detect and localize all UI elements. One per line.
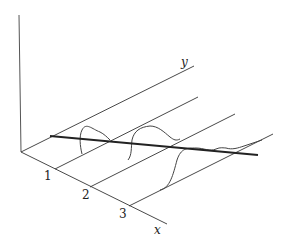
- y-axis-label: y: [180, 55, 188, 69]
- y-axis: [21, 66, 194, 152]
- line-at-x1: [55, 97, 198, 169]
- tick-label-3: 3: [119, 207, 127, 221]
- tick-label-1: 1: [44, 169, 52, 183]
- x-axis: [21, 152, 167, 224]
- vertical-axis: [19, 15, 21, 152]
- x-axis-label: x: [154, 223, 161, 237]
- diagram-canvas: y x 1 2 3: [0, 0, 288, 248]
- tick-label-2: 2: [82, 188, 90, 202]
